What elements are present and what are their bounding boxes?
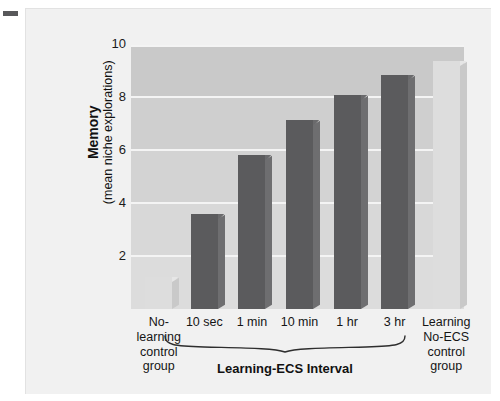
bar-1-hr	[334, 95, 361, 309]
bar-side-face	[172, 277, 179, 309]
y-axis: 10 8 6 4 2	[104, 37, 130, 317]
y-tick-label-4: 4	[119, 196, 126, 209]
bar-3-hr	[381, 75, 408, 309]
x-tick-label-learning-no-ecs-control-group: LearningNo-ECScontrolgroup	[409, 315, 483, 374]
bar-learning-no-ecs-control-group	[433, 61, 460, 309]
bar-front-face	[381, 75, 408, 309]
bar-side-face	[313, 120, 320, 309]
y-tick-label-8: 8	[119, 90, 126, 103]
bar-1-min	[238, 155, 265, 309]
y-tick-label-2: 2	[119, 249, 126, 262]
y-tick-label-6: 6	[119, 143, 126, 156]
chart-panel: Memory (mean niche explorations) 10 8 6 …	[25, 8, 491, 394]
figure-container: Memory (mean niche explorations) 10 8 6 …	[0, 0, 500, 401]
bar-side-face	[408, 76, 415, 309]
bar-10-sec	[191, 214, 218, 309]
bar-side-face	[460, 62, 467, 309]
bar-front-face	[238, 155, 265, 309]
gridline-10	[131, 45, 464, 47]
y-tick-label-10: 10	[112, 37, 126, 50]
plot-area	[131, 45, 464, 309]
bar-side-face	[265, 155, 272, 309]
bar-front-face	[334, 95, 361, 309]
bar-front-face	[286, 120, 313, 309]
bar-front-face	[191, 214, 218, 309]
bar-side-face	[218, 215, 225, 309]
group-bracket-icon	[164, 335, 406, 353]
bar-side-face	[361, 95, 368, 309]
y-axis-title-main: Memory	[85, 42, 101, 222]
bar-10-min	[286, 120, 313, 309]
corner-dash-marker	[3, 11, 18, 16]
bar-front-face	[145, 277, 172, 309]
bar-front-face	[433, 61, 460, 309]
bar-no-learning-control-group	[145, 277, 172, 309]
x-axis-group-label: Learning-ECS Interval	[164, 361, 406, 376]
